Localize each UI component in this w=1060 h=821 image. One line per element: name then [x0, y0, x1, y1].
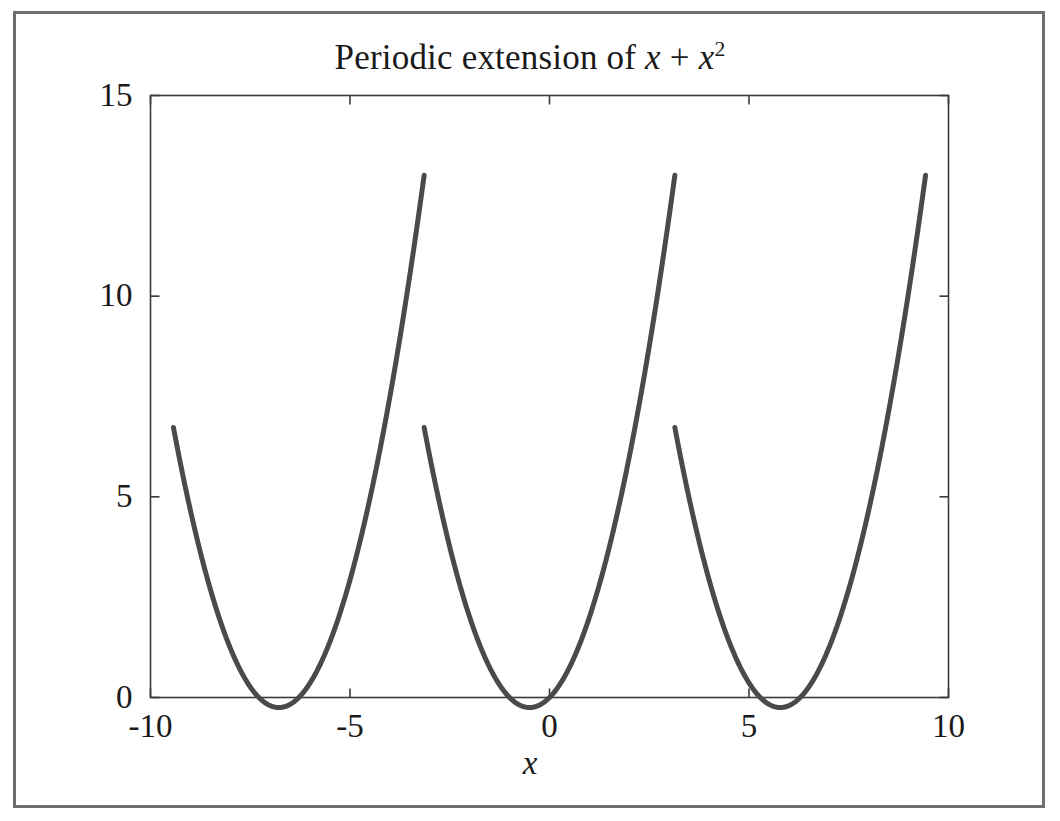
chart-title-var1: x [645, 38, 661, 77]
chart-svg [0, 0, 1060, 821]
x-tick-label: 0 [490, 710, 610, 743]
plot-box-group [151, 96, 949, 698]
chart-plot-area: Periodic extension of x + x2 x -10-50510… [0, 0, 1060, 821]
x-tick-label: -10 [91, 710, 211, 743]
y-tick-label: 15 [23, 79, 133, 112]
x-tick-label: 10 [889, 710, 1009, 743]
chart-title-exponent: 2 [714, 37, 725, 61]
chart-title: Periodic extension of x + x2 [0, 36, 1060, 80]
chart-title-plus: + [661, 38, 699, 77]
x-tick-label: -5 [290, 710, 410, 743]
chart-title-prefix: Periodic extension of [335, 38, 646, 77]
x-tick-label: 5 [689, 710, 809, 743]
x-axis-label: x [0, 745, 1060, 782]
chart-title-var2: x [699, 38, 715, 77]
y-tick-label: 0 [23, 681, 133, 714]
figure-canvas: Periodic extension of x + x2 x -10-50510… [0, 0, 1060, 821]
y-tick-label: 5 [23, 480, 133, 513]
plot-frame [151, 96, 949, 698]
y-tick-label: 10 [23, 279, 133, 312]
